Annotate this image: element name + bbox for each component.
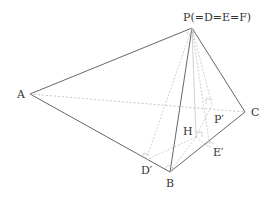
edge-PA [30, 28, 192, 94]
line-D-prime-H [146, 137, 196, 160]
edge-AB [30, 94, 170, 172]
edge-PC [192, 28, 245, 112]
label-B: B [166, 178, 174, 189]
right-angle-E-prime [206, 141, 214, 145]
construction-lines [142, 28, 214, 172]
right-angle-B [165, 165, 173, 169]
line-PH [192, 28, 196, 137]
pyramid-diagram: P(=D=E=F) A C B D′ E′ H P′ [0, 0, 276, 200]
right-angle-P-prime [206, 99, 212, 104]
label-A: A [17, 89, 25, 100]
line-PP-prime [192, 28, 212, 105]
label-E-prime: E′ [213, 147, 224, 158]
label-P: P(=D=E=F) [183, 12, 251, 23]
label-D-prime: D′ [141, 165, 152, 176]
label-C: C [251, 107, 259, 118]
edge-PB [170, 28, 192, 172]
line-PE-prime [192, 28, 210, 148]
right-angle-H [196, 132, 202, 137]
label-P-prime: P′ [214, 114, 224, 125]
label-H: H [183, 126, 193, 137]
edge-BC [170, 112, 245, 172]
line-PD-prime [146, 28, 192, 160]
diagram-canvas [0, 0, 276, 200]
hidden-edge-AC [30, 94, 245, 112]
